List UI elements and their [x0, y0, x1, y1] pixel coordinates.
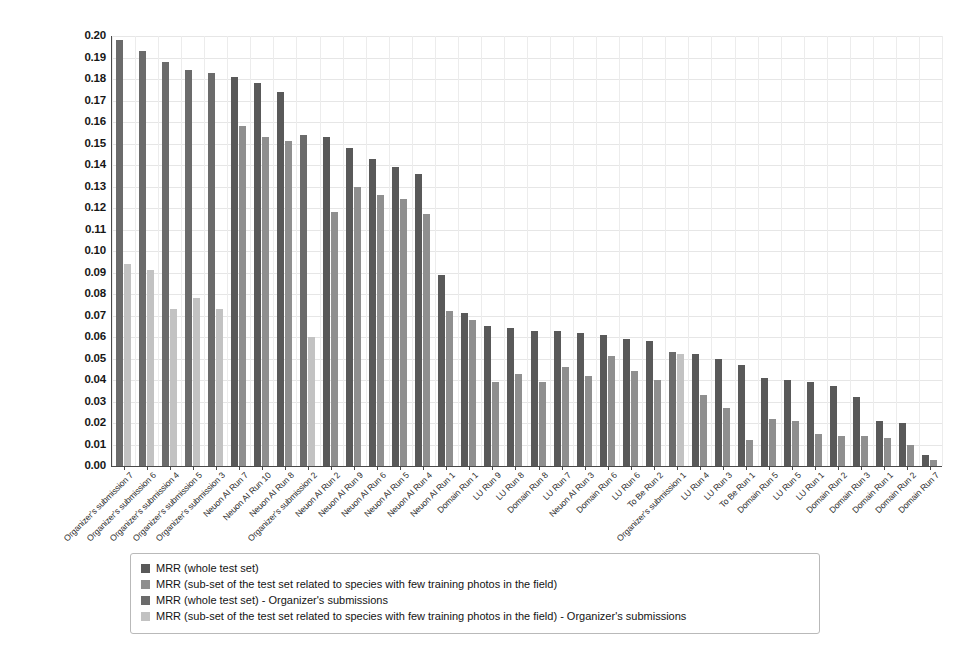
- bar-mrr-subset[interactable]: [446, 311, 453, 466]
- bar-mrr-whole[interactable]: [784, 380, 791, 466]
- bar-mrr-subset[interactable]: [792, 421, 799, 466]
- bar-mrr-subset[interactable]: [746, 440, 753, 466]
- bar-mrr-subset[interactable]: [700, 395, 707, 466]
- bar-mrr-whole[interactable]: [185, 70, 192, 466]
- bar-mrr-subset[interactable]: [585, 376, 592, 466]
- bar-mrr-subset[interactable]: [539, 382, 546, 466]
- bar-mrr-whole[interactable]: [531, 331, 538, 466]
- bar-mrr-whole[interactable]: [438, 275, 445, 466]
- bar-mrr-whole[interactable]: [392, 167, 399, 466]
- legend-item[interactable]: MRR (whole test set) - Organizer's submi…: [141, 593, 809, 608]
- bar-group[interactable]: [139, 36, 155, 466]
- bar-mrr-whole[interactable]: [554, 331, 561, 466]
- bar-mrr-subset[interactable]: [884, 438, 891, 466]
- bar-group[interactable]: [162, 36, 178, 466]
- bar-group[interactable]: [438, 36, 454, 466]
- bar-mrr-subset[interactable]: [262, 137, 269, 466]
- legend-item[interactable]: MRR (sub-set of the test set related to …: [141, 609, 809, 624]
- bar-group[interactable]: [646, 36, 662, 466]
- bar-group[interactable]: [853, 36, 869, 466]
- bar-group[interactable]: [185, 36, 201, 466]
- bar-mrr-subset[interactable]: [469, 320, 476, 466]
- bar-mrr-whole[interactable]: [162, 62, 169, 466]
- bar-group[interactable]: [461, 36, 477, 466]
- bar-mrr-subset[interactable]: [815, 434, 822, 466]
- bar-mrr-subset[interactable]: [377, 195, 384, 466]
- bar-mrr-whole[interactable]: [807, 382, 814, 466]
- bar-mrr-whole[interactable]: [692, 354, 699, 466]
- bar-group[interactable]: [577, 36, 593, 466]
- bar-mrr-whole[interactable]: [715, 359, 722, 467]
- bar-mrr-subset[interactable]: [239, 126, 246, 466]
- bar-group[interactable]: [554, 36, 570, 466]
- bar-mrr-whole[interactable]: [461, 313, 468, 466]
- bar-mrr-whole[interactable]: [254, 83, 261, 466]
- bar-mrr-subset[interactable]: [216, 309, 223, 466]
- bar-mrr-whole[interactable]: [899, 423, 906, 466]
- bar-mrr-whole[interactable]: [369, 159, 376, 466]
- bar-group[interactable]: [277, 36, 293, 466]
- bar-mrr-subset[interactable]: [423, 214, 430, 466]
- bar-group[interactable]: [600, 36, 616, 466]
- bar-group[interactable]: [369, 36, 385, 466]
- bar-mrr-subset[interactable]: [331, 212, 338, 466]
- bar-group[interactable]: [531, 36, 547, 466]
- bar-group[interactable]: [346, 36, 362, 466]
- bar-mrr-subset[interactable]: [677, 354, 684, 466]
- bar-mrr-whole[interactable]: [577, 333, 584, 466]
- bar-mrr-subset[interactable]: [492, 382, 499, 466]
- bar-group[interactable]: [623, 36, 639, 466]
- bar-mrr-whole[interactable]: [231, 77, 238, 466]
- bar-mrr-whole[interactable]: [300, 135, 307, 466]
- bar-mrr-subset[interactable]: [654, 380, 661, 466]
- bar-mrr-whole[interactable]: [139, 51, 146, 466]
- bar-mrr-subset[interactable]: [608, 356, 615, 466]
- bar-mrr-whole[interactable]: [600, 335, 607, 466]
- bar-group[interactable]: [669, 36, 685, 466]
- bar-mrr-subset[interactable]: [170, 309, 177, 466]
- bar-group[interactable]: [922, 36, 938, 466]
- bar-mrr-whole[interactable]: [484, 326, 491, 466]
- bar-mrr-subset[interactable]: [124, 264, 131, 466]
- bar-mrr-whole[interactable]: [830, 386, 837, 466]
- bar-mrr-whole[interactable]: [323, 137, 330, 466]
- bar-group[interactable]: [761, 36, 777, 466]
- bar-group[interactable]: [692, 36, 708, 466]
- bar-mrr-whole[interactable]: [346, 148, 353, 466]
- bar-group[interactable]: [300, 36, 316, 466]
- bar-group[interactable]: [507, 36, 523, 466]
- bar-mrr-subset[interactable]: [354, 187, 361, 467]
- bar-mrr-whole[interactable]: [853, 397, 860, 466]
- bar-mrr-subset[interactable]: [193, 298, 200, 466]
- bar-group[interactable]: [899, 36, 915, 466]
- bar-mrr-subset[interactable]: [308, 337, 315, 466]
- bar-mrr-whole[interactable]: [669, 352, 676, 466]
- bar-mrr-whole[interactable]: [415, 174, 422, 466]
- bar-mrr-whole[interactable]: [507, 328, 514, 466]
- legend-item[interactable]: MRR (whole test set): [141, 561, 809, 576]
- bar-mrr-subset[interactable]: [147, 270, 154, 466]
- bar-group[interactable]: [116, 36, 132, 466]
- bar-mrr-subset[interactable]: [723, 408, 730, 466]
- bar-mrr-whole[interactable]: [738, 365, 745, 466]
- bar-mrr-subset[interactable]: [400, 199, 407, 466]
- bar-mrr-subset[interactable]: [838, 436, 845, 466]
- bar-group[interactable]: [715, 36, 731, 466]
- bar-mrr-whole[interactable]: [646, 341, 653, 466]
- bar-mrr-subset[interactable]: [861, 436, 868, 466]
- bar-group[interactable]: [392, 36, 408, 466]
- bar-group[interactable]: [830, 36, 846, 466]
- bar-group[interactable]: [738, 36, 754, 466]
- bar-mrr-whole[interactable]: [277, 92, 284, 466]
- bar-group[interactable]: [415, 36, 431, 466]
- bar-group[interactable]: [231, 36, 247, 466]
- bar-mrr-whole[interactable]: [116, 40, 123, 466]
- bar-mrr-whole[interactable]: [922, 455, 929, 466]
- bar-group[interactable]: [784, 36, 800, 466]
- bar-group[interactable]: [876, 36, 892, 466]
- bar-mrr-whole[interactable]: [761, 378, 768, 466]
- bar-mrr-whole[interactable]: [208, 73, 215, 466]
- bar-mrr-whole[interactable]: [876, 421, 883, 466]
- bar-mrr-subset[interactable]: [515, 374, 522, 466]
- bar-group[interactable]: [254, 36, 270, 466]
